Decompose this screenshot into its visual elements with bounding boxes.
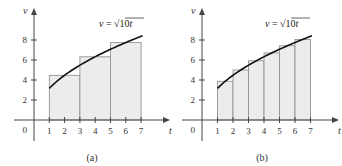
y-tick-label: 2 (191, 95, 196, 105)
x-axis-arrow-icon (163, 117, 170, 123)
riemann-rectangle (295, 39, 311, 120)
x-tick-label: 3 (78, 126, 83, 136)
riemann-sum-figures: 123456724680tvv = √10t(a)123456724680tvv… (0, 0, 342, 166)
x-tick-label: 4 (262, 126, 267, 136)
x-tick-label: 6 (124, 126, 129, 136)
y-axis-arrow-icon (31, 8, 37, 15)
x-axis-label: t (169, 125, 172, 136)
riemann-rectangle (111, 43, 142, 121)
origin-label: 0 (23, 125, 28, 135)
x-tick-label: 2 (62, 126, 67, 136)
x-tick-label: 3 (246, 126, 251, 136)
x-tick-label: 5 (108, 126, 113, 136)
y-tick-label: 4 (23, 75, 28, 85)
x-tick-label: 1 (215, 126, 220, 136)
y-axis-label: v (23, 5, 28, 16)
curve-equation-label: v = √10t (265, 18, 299, 29)
y-axis-arrow-icon (199, 8, 205, 15)
x-tick-label: 4 (93, 126, 98, 136)
y-tick-label: 4 (191, 75, 196, 85)
riemann-rectangle (233, 70, 249, 120)
y-tick-label: 6 (191, 55, 196, 65)
x-tick-label: 7 (308, 126, 313, 136)
origin-label: 0 (191, 125, 196, 135)
x-tick-label: 7 (139, 126, 144, 136)
curve-equation-label: v = √10t (99, 18, 133, 29)
figure-caption: (b) (256, 152, 268, 164)
x-tick-label: 6 (293, 126, 298, 136)
riemann-rectangle (264, 53, 280, 120)
x-tick-label: 1 (47, 126, 52, 136)
x-axis-label: t (338, 125, 341, 136)
riemann-rectangle (80, 57, 111, 120)
y-axis-label: v (191, 5, 196, 16)
y-tick-label: 6 (23, 55, 28, 65)
riemann-rectangle (49, 75, 80, 120)
figure-caption: (a) (86, 152, 97, 164)
chart-panel-a: 123456724680tvv = √10t(a) (14, 5, 172, 164)
y-tick-label: 2 (23, 95, 28, 105)
y-tick-label: 8 (23, 35, 28, 45)
y-tick-label: 8 (191, 35, 196, 45)
x-axis-arrow-icon (332, 117, 339, 123)
chart-panel-b: 123456724680tvv = √10t(b) (182, 5, 341, 164)
x-tick-label: 2 (231, 126, 236, 136)
riemann-rectangle (249, 61, 265, 120)
riemann-rectangle (280, 46, 296, 120)
x-tick-label: 5 (277, 126, 282, 136)
